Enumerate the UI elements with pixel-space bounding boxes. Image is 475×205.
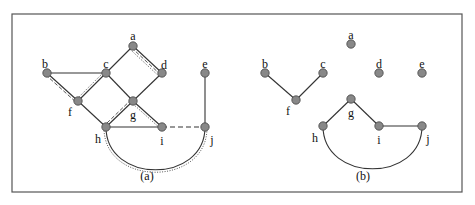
edge-c-f bbox=[78, 73, 106, 101]
node-label-i: i bbox=[160, 134, 164, 148]
node-label-g: g bbox=[130, 108, 136, 122]
node-label-d: d bbox=[161, 58, 167, 72]
node-label-h: h bbox=[95, 132, 101, 146]
edge-g-i bbox=[351, 99, 379, 126]
node-f bbox=[292, 96, 300, 104]
node-label-b: b bbox=[42, 57, 48, 71]
node-label-g: g bbox=[348, 106, 354, 120]
node-label-c: c bbox=[320, 57, 325, 71]
node-j bbox=[418, 122, 426, 130]
edge-g-h bbox=[106, 101, 133, 127]
edge-g-i bbox=[133, 101, 162, 127]
edge-c-g bbox=[106, 73, 133, 101]
edge-a-c bbox=[106, 46, 133, 73]
node-label-h: h bbox=[312, 131, 318, 145]
node-h bbox=[319, 122, 327, 130]
edge-overlay-dashed bbox=[46, 75, 77, 103]
node-label-i: i bbox=[377, 133, 381, 147]
edge-overlay-dotted bbox=[130, 49, 159, 76]
node-label-e: e bbox=[202, 57, 207, 71]
arc-edge-h-j bbox=[323, 126, 422, 169]
graph-diagram: abcdefghij(a)abcdefghij(b) bbox=[0, 0, 475, 205]
arc-edge-overlay-dotted bbox=[104, 128, 207, 172]
node-label-a: a bbox=[130, 29, 136, 43]
panel-b: abcdefghij(b) bbox=[261, 28, 430, 183]
node-label-f: f bbox=[68, 105, 72, 119]
arc-edge-h-j bbox=[106, 127, 205, 170]
edge-d-g bbox=[133, 73, 162, 101]
edge-b-f bbox=[47, 73, 78, 101]
node-label-j: j bbox=[209, 133, 213, 147]
nodes: abcdefghij bbox=[261, 28, 430, 147]
node-label-f: f bbox=[286, 104, 290, 118]
edge-a-d bbox=[133, 46, 162, 73]
node-label-c: c bbox=[103, 57, 108, 71]
node-label-d: d bbox=[376, 57, 382, 71]
panel-caption: (a) bbox=[140, 169, 153, 183]
panel-a: abcdefghij(a) bbox=[42, 29, 214, 183]
nodes: abcdefghij bbox=[42, 29, 214, 148]
panel-caption: (b) bbox=[356, 169, 370, 183]
node-i bbox=[158, 123, 166, 131]
edge-overlay-dashed bbox=[132, 48, 161, 75]
node-label-e: e bbox=[419, 57, 424, 71]
node-a bbox=[129, 42, 137, 50]
edge-g-h bbox=[323, 99, 351, 126]
node-j bbox=[201, 123, 209, 131]
node-h bbox=[102, 123, 110, 131]
edges bbox=[265, 73, 422, 169]
edge-overlay-dotted bbox=[76, 71, 104, 99]
edge-overlay-dashed bbox=[104, 99, 131, 125]
node-g bbox=[129, 97, 137, 105]
node-label-a: a bbox=[348, 28, 354, 42]
node-label-j: j bbox=[425, 132, 429, 146]
node-f bbox=[74, 97, 82, 105]
edge-b-f bbox=[265, 73, 296, 100]
node-g bbox=[347, 95, 355, 103]
edge-c-f bbox=[296, 73, 323, 100]
edge-f-h bbox=[78, 101, 106, 127]
node-i bbox=[375, 122, 383, 130]
node-label-b: b bbox=[262, 57, 268, 71]
